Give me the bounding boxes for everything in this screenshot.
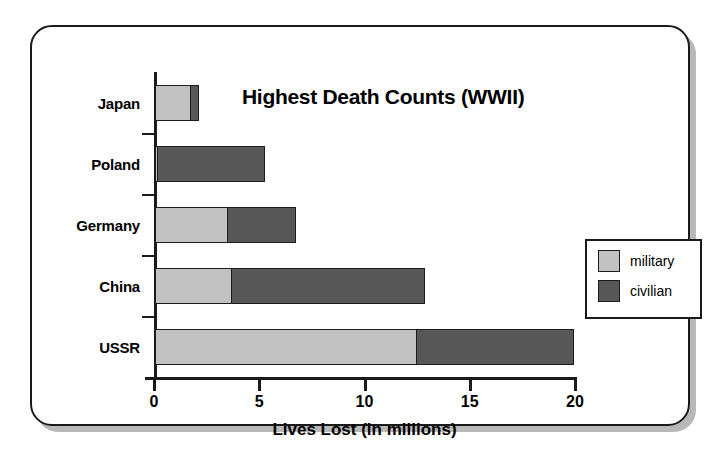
legend-label-military: military [630, 253, 674, 269]
bar-row: Japan [154, 85, 575, 121]
x-axis-tick-label: 20 [566, 393, 584, 411]
bar-stack [156, 268, 425, 304]
bar-segment-military [155, 268, 233, 304]
x-axis-tick [258, 380, 261, 391]
bar-row: USSR [154, 329, 575, 365]
legend-label-civilian: civilian [630, 283, 672, 299]
bar-stack [156, 329, 574, 365]
bar-row: Poland [154, 146, 575, 182]
x-axis-tick [153, 380, 156, 391]
x-axis-tick [469, 380, 472, 391]
bar-row: Germany [154, 207, 575, 243]
bar-segment-civilian [231, 268, 425, 304]
legend-swatch-civilian-icon [598, 280, 620, 302]
bar-stack [156, 146, 265, 182]
bar-stack [156, 85, 199, 121]
x-axis-tick-label: 10 [356, 393, 374, 411]
y-axis-tick [142, 133, 154, 135]
category-label-poland: Poland [91, 155, 140, 172]
bar-segment-military [155, 85, 192, 121]
category-label-japan: Japan [98, 94, 140, 111]
bar-segment-military [155, 207, 229, 243]
x-axis-tick-label: 15 [461, 393, 479, 411]
y-axis-tick [142, 316, 154, 318]
x-axis-line [145, 377, 577, 380]
y-axis-tick [142, 255, 154, 257]
category-label-china: China [99, 277, 140, 294]
legend-swatch-military-icon [598, 250, 620, 272]
bar-stack [156, 207, 296, 243]
bar-row: China [154, 268, 575, 304]
legend-item-military: military [598, 250, 700, 272]
bar-segment-military [155, 329, 418, 365]
bar-segment-civilian [190, 85, 199, 121]
bar-segment-civilian [157, 146, 264, 182]
chart-frame: Highest Death Counts (WWII) Lives Lost (… [30, 25, 690, 426]
x-axis-tick-label: 5 [255, 393, 264, 411]
chart-legend: military civilian [585, 239, 702, 319]
x-axis-title: Lives Lost (in millions) [154, 420, 575, 440]
x-axis-tick [364, 380, 367, 391]
x-axis-tick-label: 0 [150, 393, 159, 411]
bar-segment-civilian [416, 329, 574, 365]
x-axis-tick [574, 380, 577, 391]
legend-item-civilian: civilian [598, 280, 700, 302]
y-axis-tick [142, 194, 154, 196]
category-label-germany: Germany [76, 216, 140, 233]
bar-segment-civilian [227, 207, 296, 243]
category-label-ussr: USSR [99, 338, 140, 355]
